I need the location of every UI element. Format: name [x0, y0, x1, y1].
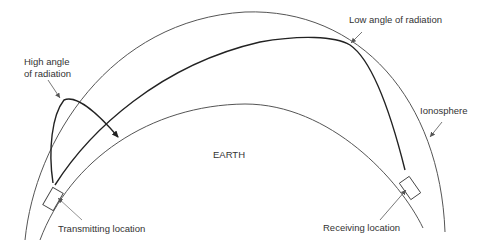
low-angle-leader [351, 32, 362, 43]
transmitting-location-label: Transmitting location [58, 223, 145, 234]
low-angle-label: Low angle of radiation [349, 14, 442, 25]
skywave-diagram [0, 0, 491, 247]
receiving-leader [380, 190, 406, 220]
receiver-antenna-icon [399, 176, 420, 199]
high-angle-label-line1: High angle [24, 56, 69, 67]
transmitter-antenna-icon [43, 187, 63, 210]
ionosphere-arc [25, 12, 445, 240]
transmitting-leader [58, 198, 82, 220]
high-angle-label-line2: of radiation [24, 68, 71, 79]
ionosphere-leader [430, 122, 442, 137]
ionosphere-label: Ionosphere [420, 105, 468, 116]
low-angle-path [55, 37, 405, 185]
receiving-location-label: Receiving location [323, 222, 400, 233]
earth-label: EARTH [213, 149, 245, 160]
high-angle-leader [48, 80, 60, 98]
earth-arc [40, 104, 423, 240]
